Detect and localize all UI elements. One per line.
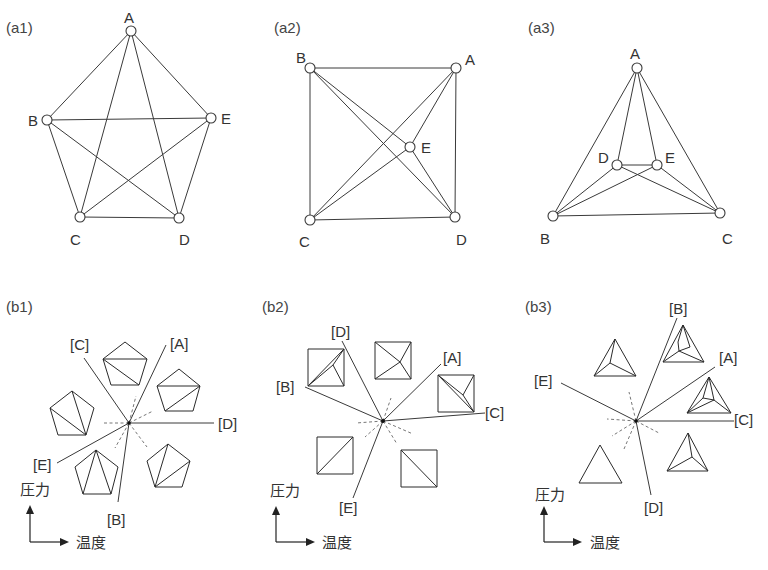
pentagon-bottom-right bbox=[147, 444, 190, 487]
right-arrow-icon bbox=[306, 538, 315, 546]
node-a1-D bbox=[174, 213, 184, 223]
panel-label-a2: (a2) bbox=[274, 19, 301, 36]
panel-a1: (a1) A B E C D bbox=[6, 9, 231, 248]
node-a2-E bbox=[405, 142, 415, 152]
axis-label-pressure-b3: 圧力 bbox=[535, 486, 565, 504]
ray-label-b1-E: [E] bbox=[33, 456, 51, 473]
node-label-a3-B: B bbox=[540, 230, 550, 247]
ray-b3-E bbox=[561, 383, 636, 421]
node-label-a2-C: C bbox=[299, 233, 310, 250]
ray-label-b3-A: [A] bbox=[719, 349, 737, 366]
node-a2-D bbox=[450, 212, 460, 222]
ray-label-b1-D: [D] bbox=[218, 415, 237, 432]
ray-label-b2-C: [C] bbox=[485, 404, 504, 421]
triangle-top bbox=[663, 325, 704, 362]
panel-label-b3: (b3) bbox=[525, 298, 552, 315]
ray-b3-B bbox=[636, 318, 677, 421]
panel-label-b1: (b1) bbox=[6, 298, 33, 315]
node-label-a1-E: E bbox=[221, 110, 231, 127]
ray-label-b2-D: [D] bbox=[331, 323, 350, 340]
ray-label-b2-B: [B] bbox=[276, 378, 294, 395]
ray-b1-A bbox=[129, 345, 166, 423]
ray-label-b2-E: [E] bbox=[339, 499, 357, 516]
node-label-a2-B: B bbox=[296, 49, 306, 66]
invariant-point-b3 bbox=[634, 419, 638, 423]
ray-b1-C bbox=[84, 358, 129, 423]
axis-arrows-b3: 温度 bbox=[540, 506, 620, 552]
axis-arrows-b1: 温度 bbox=[26, 505, 106, 552]
ray-label-b1-C: [C] bbox=[70, 336, 89, 353]
up-arrow-icon bbox=[272, 506, 280, 515]
pentagon-upper-right bbox=[157, 369, 200, 411]
node-a3-A bbox=[632, 63, 642, 73]
node-a2-C bbox=[305, 215, 315, 225]
pentagon-left bbox=[50, 391, 94, 435]
up-arrow-icon bbox=[540, 506, 548, 515]
node-a3-C bbox=[715, 208, 725, 218]
panel-label-b2: (b2) bbox=[262, 298, 289, 315]
node-label-a3-C: C bbox=[722, 230, 733, 247]
ray-b3-D bbox=[636, 421, 651, 495]
right-arrow-icon bbox=[60, 538, 69, 546]
graph-edges-a2 bbox=[310, 68, 456, 220]
pentagon-top bbox=[103, 342, 147, 385]
node-label-a1-D: D bbox=[179, 231, 190, 248]
axis-label-temperature-b2: 温度 bbox=[322, 534, 352, 552]
ray-label-b2-A: [A] bbox=[443, 349, 461, 366]
node-a1-A bbox=[126, 26, 136, 36]
ray-b2-E bbox=[353, 421, 383, 498]
ray-label-b3-B: [B] bbox=[669, 300, 687, 317]
invariant-point-b1 bbox=[127, 421, 131, 425]
triangle-lower-left-empty bbox=[579, 445, 622, 483]
node-label-a3-A: A bbox=[630, 45, 640, 62]
pentagon-bottom-left bbox=[75, 450, 118, 494]
node-label-a2-D: D bbox=[456, 231, 467, 248]
node-label-a1-A: A bbox=[124, 9, 134, 26]
node-label-a3-D: D bbox=[598, 149, 609, 166]
panel-label-a3: (a3) bbox=[528, 19, 555, 36]
panel-a2: (a2) B A E C D bbox=[274, 19, 475, 250]
graph-edges-a3 bbox=[553, 68, 720, 216]
triangle-lower-right bbox=[667, 433, 708, 471]
invariant-point-b2 bbox=[381, 419, 385, 423]
node-label-a1-C: C bbox=[70, 231, 81, 248]
ray-b1-B bbox=[118, 423, 129, 502]
square-lower-right bbox=[401, 450, 437, 487]
triangle-right bbox=[687, 377, 731, 413]
right-arrow-icon bbox=[573, 538, 582, 546]
panel-b3: (b3) [B] [A] [C] [E] [D] bbox=[525, 298, 753, 552]
node-a1-B bbox=[42, 115, 52, 125]
ray-label-b3-D: [D] bbox=[644, 499, 663, 516]
node-label-a2-A: A bbox=[465, 51, 475, 68]
node-a2-B bbox=[305, 63, 315, 73]
node-label-a2-E: E bbox=[421, 139, 431, 156]
node-a1-E bbox=[206, 113, 216, 123]
ray-b2-C bbox=[383, 413, 485, 421]
ray-b2-A bbox=[383, 364, 441, 421]
node-a3-E bbox=[652, 160, 662, 170]
square-top bbox=[375, 342, 411, 379]
ray-b2-D bbox=[342, 341, 383, 421]
ray-label-b3-C: [C] bbox=[734, 411, 753, 428]
axis-label-pressure-b2: 圧力 bbox=[270, 482, 300, 500]
ray-label-b1-A: [A] bbox=[170, 335, 188, 352]
ray-label-b1-B: [B] bbox=[107, 511, 125, 528]
square-lower-left bbox=[317, 437, 353, 474]
panel-a3: (a3) A D E B C bbox=[528, 19, 733, 247]
figure-canvas: (a1) A B E C D (a2) bbox=[0, 0, 768, 570]
node-a2-A bbox=[451, 63, 461, 73]
square-right bbox=[438, 375, 474, 412]
node-label-a1-B: B bbox=[28, 112, 38, 129]
graph-edges-a1 bbox=[47, 31, 211, 218]
ray-label-b3-E: [E] bbox=[534, 372, 552, 389]
up-arrow-icon bbox=[26, 505, 34, 514]
axis-label-temperature-b3: 温度 bbox=[590, 534, 620, 552]
axes-b1: 圧力 bbox=[20, 481, 50, 499]
node-a3-D bbox=[612, 160, 622, 170]
axis-label-pressure-b1: 圧力 bbox=[20, 481, 50, 499]
panel-b1: (b1) [A] [C] [D] [E] [B] bbox=[6, 298, 237, 552]
triangle-upper-left bbox=[594, 339, 636, 376]
axis-label-temperature-b1: 温度 bbox=[76, 534, 106, 552]
panel-b2: (b2) [A] [D] [B] [C] [E] bbox=[262, 298, 504, 552]
node-label-a3-E: E bbox=[665, 149, 675, 166]
